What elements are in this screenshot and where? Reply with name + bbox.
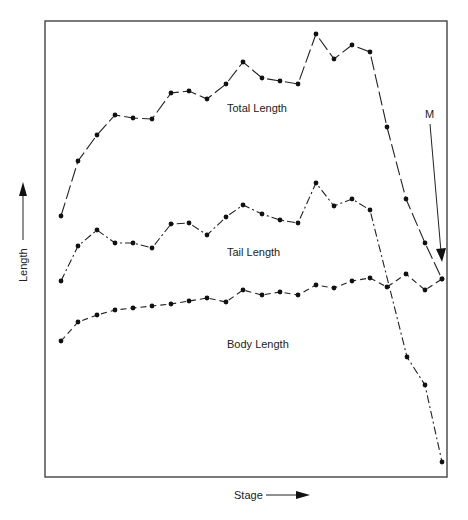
- data-point: [205, 233, 210, 238]
- data-point: [278, 290, 283, 295]
- data-point: [113, 241, 118, 246]
- data-point: [314, 283, 319, 288]
- data-point: [113, 113, 118, 118]
- data-point: [95, 313, 100, 318]
- label-body-length: Body Length: [227, 338, 289, 350]
- data-point: [332, 204, 337, 209]
- svg-text:Stage: Stage: [234, 489, 263, 501]
- data-point: [241, 203, 246, 208]
- data-point: [113, 308, 118, 313]
- data-point: [187, 89, 192, 94]
- data-point: [260, 293, 265, 298]
- annotation-m: M: [425, 108, 434, 120]
- data-point: [241, 288, 246, 293]
- label-total-length: Total Length: [227, 102, 287, 114]
- data-point: [205, 97, 210, 102]
- data-point: [150, 246, 155, 251]
- data-point: [296, 221, 301, 226]
- data-point: [260, 212, 265, 217]
- data-point: [76, 159, 81, 164]
- data-point: [169, 222, 174, 227]
- data-point: [131, 116, 136, 121]
- data-point: [76, 244, 81, 249]
- data-point: [59, 214, 64, 219]
- data-point: [131, 241, 136, 246]
- data-point: [278, 79, 283, 84]
- data-point: [95, 133, 100, 138]
- m-arrow-icon: [430, 124, 446, 262]
- arrow-right-icon: [296, 491, 310, 499]
- data-point: [423, 241, 428, 246]
- chart: Total Length Tail Length Body Length M L…: [0, 0, 468, 520]
- data-point: [131, 306, 136, 311]
- data-point: [440, 460, 445, 465]
- data-point: [59, 339, 64, 344]
- data-point: [224, 82, 229, 87]
- data-point: [314, 181, 319, 186]
- series-tail-length: [59, 181, 445, 465]
- data-point: [187, 299, 192, 304]
- data-point: [368, 50, 373, 55]
- data-point: [296, 293, 301, 298]
- data-point: [241, 60, 246, 65]
- data-point: [423, 383, 428, 388]
- arrow-up-icon: [19, 182, 27, 196]
- data-point: [405, 355, 410, 360]
- y-axis-label: Length: [17, 182, 29, 282]
- data-point: [260, 76, 265, 81]
- data-point: [205, 296, 210, 301]
- data-point: [440, 277, 445, 282]
- data-point: [404, 197, 409, 202]
- data-point: [150, 117, 155, 122]
- data-point: [59, 279, 64, 284]
- data-point: [296, 82, 301, 87]
- data-point: [368, 208, 373, 213]
- data-point: [332, 286, 337, 291]
- data-point: [169, 91, 174, 96]
- svg-text:Length: Length: [17, 248, 29, 282]
- data-point: [332, 57, 337, 62]
- x-axis-label: Stage: [234, 489, 310, 501]
- data-point: [224, 300, 229, 305]
- label-tail-length: Tail Length: [227, 246, 280, 258]
- data-point: [150, 304, 155, 309]
- data-point: [404, 272, 409, 277]
- data-point: [187, 221, 192, 226]
- data-point: [224, 215, 229, 220]
- data-point: [95, 228, 100, 233]
- data-point: [385, 285, 390, 290]
- data-point: [423, 288, 428, 293]
- data-point: [314, 32, 319, 37]
- data-point: [385, 125, 390, 130]
- data-point: [169, 302, 174, 307]
- data-point: [368, 276, 373, 281]
- series-body-length: [59, 272, 445, 344]
- data-point: [350, 197, 355, 202]
- data-point: [76, 320, 81, 325]
- data-point: [350, 279, 355, 284]
- data-point: [350, 43, 355, 48]
- data-point: [278, 218, 283, 223]
